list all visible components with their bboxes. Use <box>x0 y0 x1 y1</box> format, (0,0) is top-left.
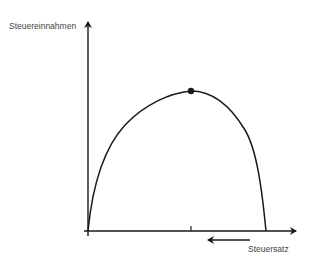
laffer-curve <box>88 91 266 231</box>
maximum-point <box>188 88 194 94</box>
x-axis-label: Steuersatz <box>248 244 289 254</box>
y-axis-label: Steuereinnahmen <box>9 21 76 31</box>
laffer-diagram <box>0 0 309 263</box>
